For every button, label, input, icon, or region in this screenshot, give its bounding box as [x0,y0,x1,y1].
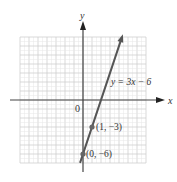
point-1-label: (1, −3) [96,122,122,133]
coordinate-plane: x y 0 y = 3x − 6 (1, −3) (0, −6) [0,0,177,182]
y-axis-label: y [79,10,85,21]
equation-label: y = 3x − 6 [110,77,152,87]
x-axis-arrow-icon [156,97,165,103]
point-2-label: (0, −6) [86,149,112,160]
y-axis-arrow-icon [80,21,86,30]
x-axis-label: x [167,95,173,106]
origin-label: 0 [75,103,80,114]
point-2-marker [80,151,85,156]
point-1-marker [89,124,94,129]
